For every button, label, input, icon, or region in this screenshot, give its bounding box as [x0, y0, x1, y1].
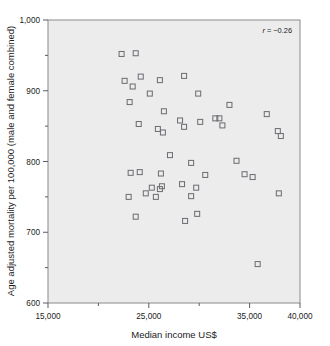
y-tick-label: 900 [26, 87, 40, 96]
x-axis-title: Median income US$ [131, 329, 217, 340]
y-tick-label: 700 [26, 228, 40, 237]
x-tick-label: 15,000 [35, 312, 60, 321]
y-axis-ticks: 6007008009001,000 [20, 16, 49, 308]
correlation-annotation: r = −0.26 [262, 26, 292, 35]
y-axis-title: Age adjusted mortality per 100,000 (male… [5, 26, 16, 296]
x-tick-label: 25,000 [136, 312, 161, 321]
scatter-plot-figure: 6007008009001,000 15,00025,00035,00040,0… [0, 0, 330, 346]
y-tick-label: 1,000 [20, 16, 41, 25]
x-tick-label: 40,000 [287, 312, 312, 321]
x-tick-label: 35,000 [237, 312, 262, 321]
y-tick-label: 800 [26, 158, 40, 167]
x-axis-ticks: 15,00025,00035,00040,000 [35, 303, 312, 321]
y-tick-label: 600 [26, 299, 40, 308]
chart-svg: 6007008009001,000 15,00025,00035,00040,0… [0, 0, 330, 346]
plot-background [48, 20, 300, 303]
